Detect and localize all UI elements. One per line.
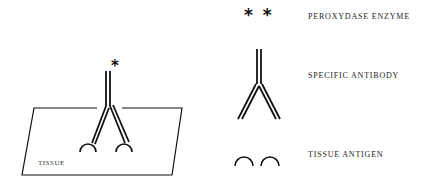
tissue-label: TISSUE [38,159,65,167]
legend-antibody-icon [238,49,280,119]
legend-label-peroxydase: PEROXYDASE ENZYME [308,12,410,21]
legend-enzyme-icon: * * [244,5,274,25]
enzyme-marker-icon: * [111,57,119,75]
tissue-antigen-bound [80,144,132,152]
legend-label-antigen: TISSUE ANTIGEN [308,150,383,159]
legend-antigen-icon [235,157,279,166]
legend-label-antibody: SPECIFIC ANTIBODY [308,71,399,80]
